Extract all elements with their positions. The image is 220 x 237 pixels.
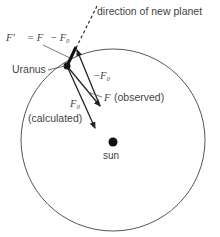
- diagram-canvas: sun direction of new planet Uranus F' = …: [0, 0, 220, 237]
- sun-dot: [109, 138, 118, 147]
- f-observed-text: (observed): [114, 91, 164, 103]
- fprime-leader: [43, 45, 70, 58]
- neg-f0-label: −F₀: [93, 70, 110, 81]
- uranus-leader: [48, 66, 65, 70]
- direction-line: [76, 4, 98, 48]
- f0-calculated-text: (calculated): [28, 112, 82, 124]
- fprime-lhs: F': [5, 32, 15, 43]
- sun-label: sun: [103, 150, 119, 161]
- f-observed-symbol: F: [103, 92, 111, 103]
- fprime-mid: = F: [27, 32, 44, 43]
- direction-label: direction of new planet: [97, 5, 202, 17]
- uranus-label: Uranus: [12, 63, 46, 75]
- f0-symbol: F₀: [69, 98, 80, 109]
- fprime-rhs: − F₀: [50, 32, 70, 43]
